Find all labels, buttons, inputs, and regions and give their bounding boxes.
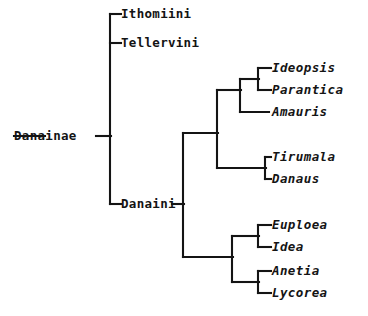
taxon-label-tirumala: Tirumala [272,151,335,163]
taxon-label-danaini: Danaini [121,198,176,210]
branch-lines [14,14,271,293]
taxon-label-idea: Idea [272,241,304,253]
taxon-label-euploea: Euploea [272,219,327,231]
taxon-label-parantica: Parantica [272,84,343,96]
taxon-label-danainae: Danainae [14,130,77,142]
taxon-label-anetia: Anetia [272,265,320,277]
taxon-label-ithomiini: Ithomiini [121,8,191,20]
taxon-label-tellervini: Tellervini [121,37,199,49]
taxon-label-amauris: Amauris [272,106,327,118]
taxon-label-ideopsis: Ideopsis [272,62,335,74]
taxon-label-lycorea: Lycorea [272,287,327,299]
taxon-label-danaus: Danaus [272,173,320,185]
